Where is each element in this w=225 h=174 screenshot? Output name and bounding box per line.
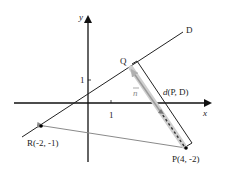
point-p <box>184 146 188 150</box>
x-axis-label: x <box>202 108 207 118</box>
x-tick-label: 1 <box>109 110 114 120</box>
distance-label: d(P, D) <box>163 87 189 97</box>
y-axis-label: y <box>78 12 83 22</box>
vector-pr <box>44 126 186 148</box>
y-axis <box>88 17 91 162</box>
x-axis <box>14 100 210 103</box>
distance-point-line-diagram: y x 1 1 D Q R(-2, -1) P(4, -2) n d(P, D) <box>0 0 225 174</box>
distance-label-args: (P, D) <box>168 87 189 97</box>
point-q-label: Q <box>120 56 127 66</box>
vector-n-label: n <box>133 88 138 98</box>
y-tick-label: 1 <box>80 75 85 85</box>
point-r-label: R(-2, -1) <box>27 138 59 148</box>
point-r <box>39 124 43 128</box>
point-p-label: P(4, -2) <box>172 154 200 164</box>
line-d <box>22 32 183 137</box>
line-d-label: D <box>186 25 193 35</box>
projection-dashed <box>160 111 184 146</box>
